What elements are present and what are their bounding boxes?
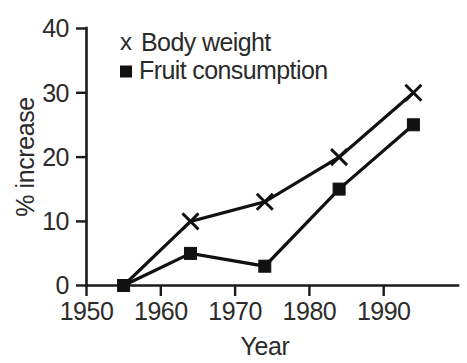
x-tick-label-1950: 1950 <box>60 297 114 325</box>
y-tick-marks <box>76 29 87 286</box>
x-tick-marks <box>87 286 384 297</box>
series-body-weight-line <box>124 93 414 286</box>
legend-x-marker-icon: x <box>120 28 132 55</box>
y-axis-title: % increase <box>11 97 39 217</box>
y-tick-label-40: 40 <box>42 14 69 42</box>
legend-entry-body-weight: x Body weight <box>120 28 271 56</box>
data-point-fruit-1975 <box>259 260 271 272</box>
legend-entry-fruit-consumption: Fruit consumption <box>120 56 328 84</box>
y-tick-label-30: 30 <box>42 79 69 107</box>
series-body-weight <box>124 85 422 286</box>
data-point-fruit-1995 <box>407 119 419 131</box>
y-tick-label-20: 20 <box>42 143 69 171</box>
chart-figure: 40 30 20 10 0 1950 1960 1970 1980 1990 Y… <box>0 0 467 363</box>
legend-square-marker-icon <box>120 66 132 78</box>
data-point-bodyweight-1995 <box>405 85 421 101</box>
y-tick-label-0: 0 <box>56 271 69 299</box>
x-tick-label-1960: 1960 <box>134 297 188 325</box>
data-point-fruit-1985 <box>333 183 345 195</box>
x-tick-label-1970: 1970 <box>208 297 262 325</box>
data-point-bodyweight-1985 <box>331 149 347 165</box>
line-chart-canvas: 40 30 20 10 0 1950 1960 1970 1980 1990 Y… <box>0 0 467 363</box>
legend-label-fruit-consumption: Fruit consumption <box>139 56 328 84</box>
x-tick-label-1980: 1980 <box>283 297 337 325</box>
data-point-fruit-1965 <box>185 247 197 259</box>
legend-label-body-weight: Body weight <box>141 28 271 56</box>
chart-legend: x Body weight Fruit consumption <box>120 28 328 84</box>
y-tick-labels: 40 30 20 10 0 <box>42 14 69 299</box>
y-tick-label-10: 10 <box>42 207 69 235</box>
x-tick-label-1990: 1990 <box>357 297 411 325</box>
x-tick-labels: 1950 1960 1970 1980 1990 <box>60 297 411 325</box>
x-axis-title: Year <box>241 332 290 360</box>
